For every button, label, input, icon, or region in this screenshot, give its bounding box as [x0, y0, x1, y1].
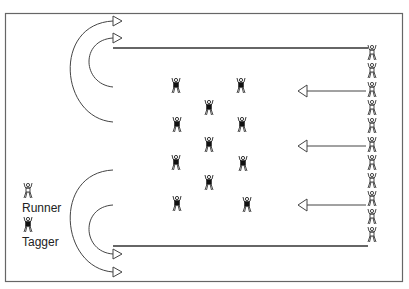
bottom-inner-curved-arrow — [89, 205, 122, 259]
top-inner-curved-arrow — [89, 33, 122, 87]
tagger-icon — [239, 156, 247, 171]
bottom-outer-curved-arrow — [70, 170, 122, 277]
runner-icon — [368, 191, 376, 206]
runner-icon — [368, 118, 376, 133]
runners-column — [368, 45, 376, 242]
tagger-icon — [205, 100, 213, 115]
straight-arrow-1 — [298, 85, 366, 97]
straight-arrow-3 — [298, 199, 366, 211]
tagger-icon — [205, 175, 213, 190]
runner-icon — [368, 209, 376, 224]
tagger-icon — [243, 197, 251, 212]
tagger-icon — [173, 196, 181, 211]
legend-runner-icon — [24, 183, 32, 198]
top-outer-curved-arrow — [70, 16, 122, 122]
legend-runner-label: Runner — [22, 201, 61, 215]
tagger-icon — [205, 137, 213, 152]
runner-icon — [368, 173, 376, 188]
straight-arrow-2 — [298, 140, 366, 152]
tagger-icon — [172, 155, 180, 170]
runner-icon — [368, 45, 376, 60]
runner-icon — [368, 82, 376, 97]
runner-icon — [368, 63, 376, 78]
tagger-icon — [237, 78, 245, 93]
tagger-icon — [238, 117, 246, 132]
legend-tagger-label: Tagger — [22, 235, 59, 249]
runner-icon — [368, 227, 376, 242]
field-frame — [6, 14, 403, 282]
diagram-canvas — [0, 0, 409, 289]
runner-icon — [368, 137, 376, 152]
legend-tagger-icon — [24, 217, 32, 232]
tagger-icon — [172, 78, 180, 93]
runner-icon — [368, 100, 376, 115]
tagger-icon — [173, 117, 181, 132]
runner-icon — [368, 155, 376, 170]
taggers-group — [172, 78, 251, 212]
